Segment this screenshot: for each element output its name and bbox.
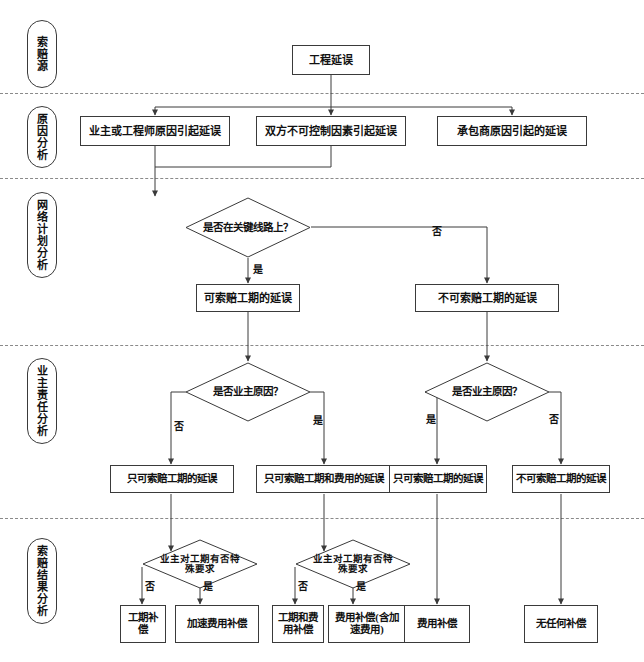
node-label: 只可索赔工期的延误 [393, 473, 483, 485]
node-label: 双方不可控制因素引起延误 [265, 125, 397, 138]
node-label: 费用补偿(含加速费用) [332, 612, 402, 637]
stage-label-claim-result-analysis: 索赔结果分析 [27, 538, 57, 624]
stage-label-text: 原因分析 [34, 113, 50, 161]
stage-label-text: 业主责任分析 [34, 365, 50, 437]
edge-label-special-left-yes: 是 [203, 578, 213, 593]
edge-label-owner-left-yes: 是 [313, 412, 323, 427]
decision-owner-cause-left[interactable]: 是否业主原因？ [185, 362, 311, 422]
node-label: 加速费用补偿 [187, 618, 247, 630]
edge-label-special-right-yes: 是 [356, 578, 366, 593]
node-label: 无任何补偿 [536, 618, 586, 630]
node-label: 不可索赔工期的延误 [516, 473, 606, 485]
stage-label-cause-analysis: 原因分析 [27, 106, 57, 168]
node-result-duration-only-left[interactable]: 只可索赔工期的延误 [110, 465, 234, 493]
node-outcome-cost-comp-with-accel[interactable]: 费用补偿(含加速费用) [328, 605, 406, 643]
node-label: 不可索赔工期的延误 [438, 292, 537, 305]
node-outcome-duration-and-cost-comp[interactable]: 工期和费用补偿 [272, 605, 324, 643]
stage-label-text: 网络计划分析 [34, 199, 50, 271]
edge-label-critical-yes: 是 [253, 261, 263, 276]
stage-label-text: 索赔结果分析 [34, 545, 50, 617]
edge-label-special-right-no: 否 [298, 578, 308, 593]
node-non-claimable-duration[interactable]: 不可索赔工期的延误 [415, 284, 559, 312]
stage-separator-1 [0, 93, 644, 94]
edge-label-critical-no: 否 [432, 223, 442, 238]
node-label: 业主或工程师原因引起延误 [89, 125, 221, 138]
node-cause-force-majeure[interactable]: 双方不可控制因素引起延误 [256, 116, 406, 146]
edge-label-special-left-no: 否 [145, 578, 155, 593]
node-result-duration-only-right[interactable]: 只可索赔工期的延误 [389, 465, 487, 493]
stage-label-owner-liability-analysis: 业主责任分析 [27, 358, 57, 444]
edge-label-owner-left-no: 否 [174, 418, 184, 433]
stage-separator-2 [0, 178, 644, 179]
node-label: 只可索赔工期的延误 [127, 473, 217, 485]
node-cause-contractor[interactable]: 承包商原因引起的延误 [437, 116, 587, 146]
node-label: 只可索赔工期和费用的延误 [264, 473, 384, 485]
flowchart-canvas: 索赔源 原因分析 网络计划分析 业主责任分析 索赔结果分析 工程延误 业主或工程… [0, 0, 644, 662]
stage-label-network-plan-analysis: 网络计划分析 [27, 192, 57, 278]
stage-label-text: 索赔源 [34, 36, 50, 72]
node-claimable-duration[interactable]: 可索赔工期的延误 [196, 284, 300, 312]
node-label: 工期补偿 [125, 612, 161, 637]
node-label: 费用补偿 [417, 618, 457, 630]
node-outcome-cost-comp[interactable]: 费用补偿 [404, 605, 470, 643]
node-cause-owner-engineer[interactable]: 业主或工程师原因引起延误 [80, 116, 230, 146]
node-label: 承包商原因引起的延误 [457, 125, 567, 138]
stage-separator-4 [0, 518, 644, 519]
node-label: 工程延误 [309, 54, 353, 67]
node-label: 工期和费用补偿 [276, 612, 320, 637]
node-label: 可索赔工期的延误 [204, 292, 292, 305]
node-root-project-delay[interactable]: 工程延误 [292, 45, 370, 75]
decision-special-requirement-right[interactable]: 业主对工期有否特殊要求 [295, 539, 411, 589]
decision-critical-path[interactable]: 是否在关键线路上？ [185, 197, 311, 258]
decision-special-requirement-left[interactable]: 业主对工期有否特殊要求 [142, 539, 258, 589]
node-outcome-duration-comp[interactable]: 工期补偿 [120, 605, 166, 643]
decision-owner-cause-right[interactable]: 是否业主原因？ [424, 362, 550, 422]
node-result-duration-and-cost[interactable]: 只可索赔工期和费用的延误 [256, 465, 392, 493]
node-outcome-accel-cost-comp[interactable]: 加速费用补偿 [175, 605, 259, 643]
edge-label-owner-right-yes: 是 [426, 411, 436, 426]
edge-label-owner-right-no: 否 [549, 411, 559, 426]
stage-label-claim-source: 索赔源 [27, 20, 57, 88]
node-result-non-claimable[interactable]: 不可索赔工期的延误 [512, 465, 610, 493]
stage-separator-3 [0, 345, 644, 346]
node-outcome-no-comp[interactable]: 无任何补偿 [524, 605, 598, 643]
